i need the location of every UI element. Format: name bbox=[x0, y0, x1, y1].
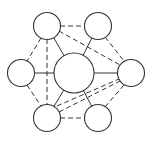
nodes-group bbox=[8, 13, 145, 132]
node-top-left bbox=[34, 13, 61, 40]
edge-left-bottom-left bbox=[27, 85, 41, 106]
node-center bbox=[54, 53, 94, 93]
node-right bbox=[118, 60, 145, 87]
network-diagram bbox=[0, 0, 154, 141]
node-bottom-right bbox=[85, 105, 112, 132]
edge-top-right-right bbox=[105, 37, 124, 61]
node-bottom-left bbox=[34, 105, 61, 132]
node-top-right bbox=[85, 13, 112, 40]
node-left bbox=[8, 60, 35, 87]
edge-top-left-left bbox=[27, 38, 41, 61]
edge-bottom-right-right bbox=[105, 85, 124, 107]
